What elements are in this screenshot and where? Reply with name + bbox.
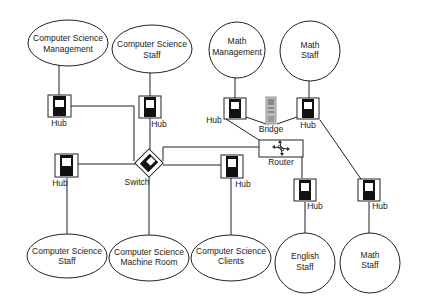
router-label: Router: [268, 157, 294, 167]
router[interactable]: Router: [259, 140, 303, 167]
hub-label: Hub: [52, 178, 68, 188]
hub-math-staff-top[interactable]: Hub: [297, 98, 319, 130]
hub-cs-staff-top[interactable]: Hub: [139, 96, 167, 129]
node-label-line: Computer Science: [117, 39, 187, 49]
node-label-line: Staff: [296, 262, 314, 272]
hub-math-staff-bottom[interactable]: Hub: [358, 179, 388, 211]
hub-icon: [358, 179, 380, 201]
bridge-label: Bridge: [259, 124, 284, 134]
hub-cs-clients[interactable]: Hub: [221, 155, 251, 189]
node-label-line: Math: [361, 250, 380, 260]
bridge[interactable]: Bridge: [259, 97, 284, 134]
node-math-staff-top[interactable]: Math Staff: [280, 21, 340, 81]
edge-math-hub-math-bottom-hub: [320, 120, 361, 179]
node-cs-machine-room[interactable]: Computer Science Machine Room: [109, 235, 189, 281]
node-cs-staff-top[interactable]: Computer Science Staff: [112, 25, 192, 73]
hub-label: Hub: [51, 118, 67, 128]
switch-label: Switch: [124, 177, 149, 187]
hub-icon: [297, 98, 319, 119]
hub-english[interactable]: Hub: [294, 179, 323, 211]
network-diagram: Computer Science Management Computer Sci…: [0, 0, 424, 297]
edge-bridge-math-staff-hub: [277, 117, 297, 124]
edge-math-hub-router: [226, 119, 259, 140]
hub-cs-staff-bottom[interactable]: Hub: [52, 154, 78, 188]
hub-label: Hub: [372, 201, 388, 211]
switch-icon: [135, 149, 163, 177]
node-label-line: Management: [43, 44, 93, 54]
node-label-line: Computer Science: [196, 246, 266, 256]
hub-icon: [224, 98, 246, 119]
hub-icon: [139, 96, 161, 118]
hub-icon: [221, 155, 243, 178]
node-label-line: Staff: [361, 260, 379, 270]
hub-icon: [55, 154, 78, 177]
hub-label: Hub: [235, 179, 251, 189]
node-label-line: English: [291, 251, 319, 261]
node-label-line: Staff: [143, 50, 161, 60]
edge-switch-router: [163, 147, 259, 161]
node-label-line: Computer Science: [33, 33, 103, 43]
edge-cs-mgmt-hub-switch: [71, 106, 134, 161]
hub-icon: [294, 179, 316, 201]
node-math-staff-bottom[interactable]: Math Staff: [340, 233, 400, 293]
hub-label: Hub: [307, 201, 323, 211]
node-label-line: Machine Room: [120, 257, 177, 267]
node-english-staff[interactable]: English Staff: [275, 233, 335, 293]
node-label-line: Clients: [218, 256, 244, 266]
node-label-line: Staff: [301, 50, 319, 60]
node-label-line: Management: [212, 47, 262, 57]
hub-label: Hub: [300, 120, 316, 130]
node-label-line: Math: [228, 36, 247, 46]
node-cs-staff-bottom[interactable]: Computer Science Staff: [27, 234, 107, 278]
bridge-icon: [266, 97, 276, 124]
switch[interactable]: Switch: [124, 149, 163, 187]
hub-math-management[interactable]: Hub: [206, 98, 246, 125]
node-label-line: Math: [301, 40, 320, 50]
edge-math-hub-bridge: [246, 117, 266, 124]
hub-icon: [48, 95, 71, 117]
hub-label: Hub: [151, 119, 167, 129]
hub-label: Hub: [206, 115, 222, 125]
node-cs-management[interactable]: Computer Science Management: [28, 20, 108, 66]
node-label-line: Computer Science: [32, 246, 102, 256]
node-label-line: Computer Science: [114, 247, 184, 257]
node-label-line: Staff: [58, 256, 76, 266]
node-cs-clients[interactable]: Computer Science Clients: [191, 235, 271, 281]
node-math-management[interactable]: Math Management: [209, 22, 265, 78]
hub-cs-management[interactable]: Hub: [48, 95, 71, 128]
